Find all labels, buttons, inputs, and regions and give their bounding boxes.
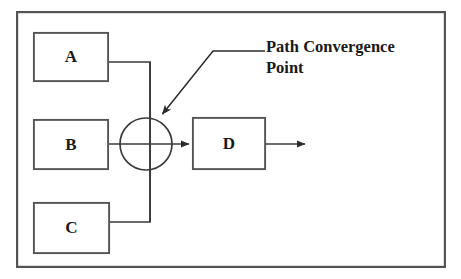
node-box-c-label: C — [65, 218, 77, 237]
node-box-d-label: D — [223, 134, 235, 153]
annotation-line-2: Point — [266, 58, 304, 77]
annotation-line-1: Path Convergence — [266, 37, 395, 56]
diagram-root: A B C D Path Convergence Point — [0, 0, 461, 279]
node-box-a-label: A — [65, 47, 78, 66]
diagram-canvas: A B C D Path Convergence Point — [0, 0, 461, 279]
node-box-b-label: B — [65, 135, 76, 154]
